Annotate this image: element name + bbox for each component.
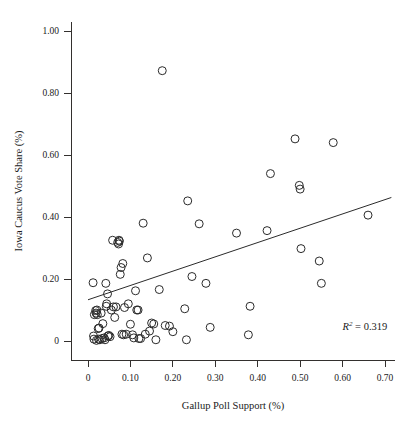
scatter-point xyxy=(126,320,134,328)
x-tick-label: 0.10 xyxy=(122,373,139,383)
scatter-point xyxy=(202,279,210,287)
scatter-point xyxy=(132,287,140,295)
y-tick-label: 0.40 xyxy=(42,212,59,222)
scatter-point xyxy=(111,313,119,321)
scatter-plot-figure: 00.200.400.600.801.00 00.100.200.300.400… xyxy=(0,0,418,421)
y-tick-label: 0.80 xyxy=(42,88,59,98)
scatter-point xyxy=(266,170,274,178)
scatter-point xyxy=(188,273,196,281)
scatter-point xyxy=(143,254,151,262)
scatter-point xyxy=(263,227,271,235)
x-axis-title: Gallup Poll Support (%) xyxy=(182,400,285,412)
scatter-point xyxy=(182,336,190,344)
scatter-point xyxy=(206,323,214,331)
r-squared-annotation: R2 = 0.319 xyxy=(342,320,388,332)
x-tick-label: 0.40 xyxy=(249,373,266,383)
scatter-point xyxy=(244,331,252,339)
x-tick-label: 0 xyxy=(86,373,91,383)
x-axis-ticks xyxy=(88,360,385,367)
scatter-point xyxy=(195,220,203,228)
scatter-point xyxy=(315,257,323,265)
x-tick-label: 0.60 xyxy=(334,373,351,383)
x-axis-tick-labels: 00.100.200.300.400.500.600.70 xyxy=(86,373,394,383)
scatter-point xyxy=(152,336,160,344)
y-tick-label: 0.20 xyxy=(42,274,59,284)
scatter-point xyxy=(317,279,325,287)
scatter-point xyxy=(155,286,163,294)
scatter-point xyxy=(291,135,299,143)
data-points xyxy=(89,67,372,345)
scatter-point xyxy=(89,279,97,287)
scatter-point xyxy=(246,302,254,310)
x-tick-label: 0.30 xyxy=(207,373,224,383)
x-tick-label: 0.70 xyxy=(377,373,394,383)
y-tick-label: 0 xyxy=(54,336,59,346)
y-axis-ticks xyxy=(64,31,71,341)
scatter-point xyxy=(181,305,189,313)
scatter-point xyxy=(233,229,241,237)
y-tick-label: 0.60 xyxy=(42,150,59,160)
scatter-point xyxy=(158,67,166,75)
y-axis-tick-labels: 00.200.400.600.801.00 xyxy=(42,26,59,346)
y-axis-title: Iowa Caucus Vote Share (%) xyxy=(13,130,25,251)
chart-svg: 00.200.400.600.801.00 00.100.200.300.400… xyxy=(0,0,418,421)
scatter-point xyxy=(329,139,337,147)
scatter-point xyxy=(184,197,192,205)
scatter-point xyxy=(297,245,305,253)
scatter-point xyxy=(364,211,372,219)
regression-trendline xyxy=(88,197,391,299)
scatter-point xyxy=(102,279,110,287)
x-tick-label: 0.50 xyxy=(292,373,309,383)
x-tick-label: 0.20 xyxy=(165,373,182,383)
scatter-point xyxy=(139,219,147,227)
y-tick-label: 1.00 xyxy=(42,26,59,36)
